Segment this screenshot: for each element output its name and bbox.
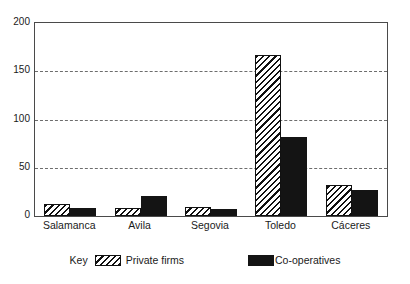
plot-area: [34, 22, 388, 217]
bar-private-firms: [326, 185, 352, 216]
x-axis-tick-labels: SalamancaAvilaSegoviaToledoCáceres: [34, 219, 388, 235]
legend-swatch-solid-icon: [248, 255, 274, 266]
y-axis-tick-label: 150: [0, 65, 30, 75]
y-axis-tick-label: 50: [0, 162, 30, 172]
legend-entry-co-operatives: Co-operatives: [248, 254, 340, 266]
bar-co-operatives: [281, 137, 307, 216]
legend-entry-private-firms: Private firms: [95, 254, 184, 266]
legend-label-private-firms: Private firms: [126, 254, 184, 266]
y-axis-tick-label: 100: [0, 114, 30, 124]
bar-private-firms: [44, 204, 70, 216]
legend-label-co-operatives: Co-operatives: [275, 254, 340, 266]
bar-co-operatives: [211, 209, 237, 216]
bar-private-firms: [185, 207, 211, 216]
gridline: [35, 168, 387, 169]
gridline: [35, 120, 387, 121]
gridline: [35, 71, 387, 72]
y-axis-tick-labels: 050100150200: [0, 22, 30, 215]
y-axis-tick-label: 200: [0, 17, 30, 27]
bar-private-firms: [255, 55, 281, 216]
legend-key-word: Key: [70, 254, 88, 266]
x-axis-tick-label: Cáceres: [301, 219, 401, 232]
legend-swatch-hatched-icon: [95, 255, 121, 266]
bar-co-operatives: [352, 190, 378, 216]
bar-co-operatives: [70, 208, 96, 216]
bar-co-operatives: [141, 196, 167, 216]
chart-legend: Key Private firms Co-operatives: [0, 250, 410, 270]
bar-private-firms: [115, 208, 141, 216]
bar-chart-figure: 050100150200 SalamancaAvilaSegoviaToledo…: [0, 0, 410, 284]
